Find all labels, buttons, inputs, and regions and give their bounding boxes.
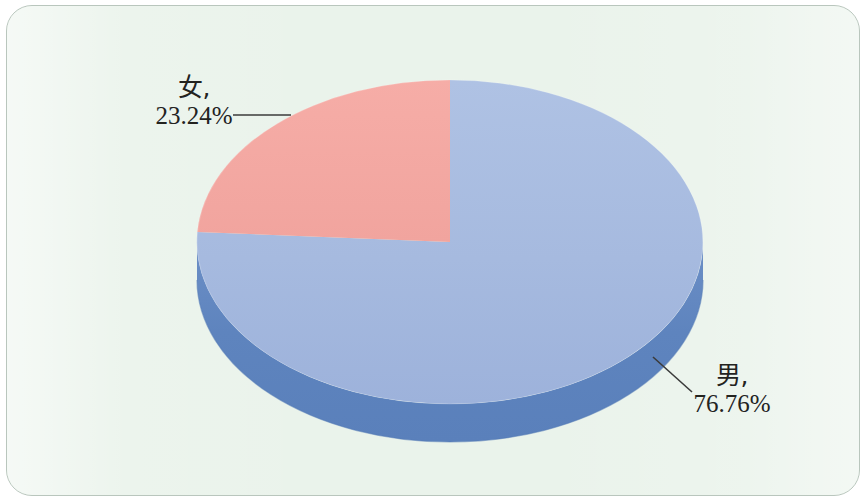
female-data-label: 女, 23.24%	[151, 74, 237, 130]
pie-chart-graphic	[0, 0, 867, 502]
male-label-percent: 76.76%	[693, 390, 770, 417]
male-data-label: 男, 76.76%	[686, 362, 778, 418]
female-label-percent: 23.24%	[155, 102, 232, 129]
female-label-category: 女,	[178, 73, 211, 102]
pie-top-surface	[197, 80, 703, 404]
pie-chart-screenshot: 女, 23.24% 男, 76.76%	[0, 0, 867, 502]
male-label-category: 男,	[716, 361, 749, 390]
